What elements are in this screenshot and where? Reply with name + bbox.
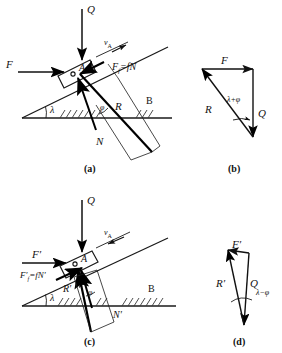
label-velocity-c: vA bbox=[104, 228, 112, 239]
label-Q-c: Q bbox=[87, 194, 95, 206]
label-N-a: N bbox=[96, 135, 103, 147]
figure-canvas bbox=[0, 0, 282, 353]
panel-d-graphics bbox=[228, 250, 252, 325]
label-R-d: R′ bbox=[216, 277, 225, 289]
label-N-c: N′ bbox=[113, 309, 122, 320]
label-friction-c: F′f=fN′ bbox=[20, 270, 46, 282]
label-phi-a: φ bbox=[100, 103, 104, 112]
force-arrow-F-d bbox=[228, 250, 249, 253]
label-velocity-c-sub: A bbox=[108, 233, 112, 239]
ground-hatch-c bbox=[58, 298, 163, 306]
label-R-a: R bbox=[115, 100, 122, 112]
point-A-marker-c bbox=[73, 262, 77, 266]
caption-c: (c) bbox=[84, 336, 95, 347]
label-friction-a-eq: =fN bbox=[120, 61, 136, 72]
label-R-c: R′ bbox=[63, 283, 71, 294]
force-arrow-Q-d bbox=[244, 253, 249, 325]
force-arrow-R-d bbox=[228, 250, 244, 325]
figure-root: Q F vA Ff=fN A R N λ φ B (a) F Q R λ+φ (… bbox=[0, 0, 282, 353]
label-friction-a: Ff=fN bbox=[112, 61, 136, 75]
velocity-indicator-a bbox=[96, 42, 128, 57]
label-F-c: F′ bbox=[32, 248, 41, 260]
construction-parallelogram-a bbox=[96, 78, 160, 160]
caption-d: (d) bbox=[233, 336, 245, 347]
label-F-b: F bbox=[221, 54, 228, 66]
point-A-marker-a bbox=[71, 72, 75, 76]
label-angle-d: λ−φ bbox=[256, 288, 269, 297]
angle-arc-lambda-c bbox=[46, 295, 47, 306]
label-B-c: B bbox=[148, 283, 155, 294]
label-Q-b: Q bbox=[258, 107, 266, 119]
label-block-A-c: A bbox=[81, 253, 87, 264]
label-friction-c-eq: =fN′ bbox=[29, 270, 46, 280]
label-lambda-c: λ bbox=[50, 292, 54, 303]
angle-arc-d bbox=[231, 298, 252, 302]
label-block-A-a: A bbox=[79, 62, 85, 73]
incline-line-a bbox=[22, 47, 168, 118]
label-B-a: B bbox=[146, 95, 153, 106]
ground-hatch-a bbox=[60, 110, 153, 118]
angle-arc-b bbox=[233, 119, 250, 120]
panel-a-graphics bbox=[18, 9, 172, 160]
label-lambda-a: λ bbox=[50, 104, 54, 115]
label-velocity-a: vA bbox=[104, 38, 112, 49]
label-phi-c: φ bbox=[88, 288, 92, 297]
caption-a: (a) bbox=[84, 163, 96, 174]
label-Q-a: Q bbox=[87, 3, 95, 15]
label-F-a: F bbox=[6, 58, 13, 70]
panel-c-graphics bbox=[22, 200, 176, 332]
label-F-d: F′ bbox=[232, 238, 241, 250]
velocity-indicator-c bbox=[96, 232, 130, 248]
label-R-b: R bbox=[205, 103, 212, 115]
label-angle-b: λ+φ bbox=[227, 95, 240, 104]
label-velocity-a-sub: A bbox=[108, 43, 112, 49]
angle-arc-lambda-a bbox=[46, 107, 47, 118]
caption-b: (b) bbox=[228, 163, 240, 174]
